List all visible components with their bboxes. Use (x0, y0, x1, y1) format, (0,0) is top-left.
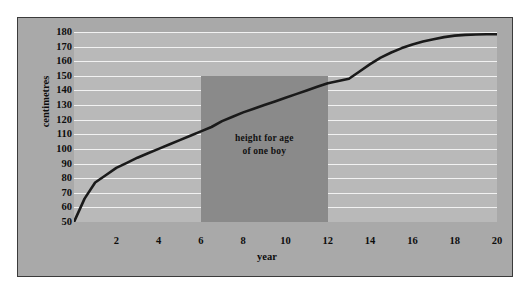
figure-panel: centimetres 1801701601501401301201101009… (17, 17, 513, 277)
y-tick-label-150: 150 (56, 71, 72, 81)
y-tick-label-160: 160 (56, 56, 72, 66)
y-tick-label-140: 140 (56, 85, 72, 95)
growth-curve (74, 32, 497, 222)
x-tick-label-18: 18 (449, 235, 460, 246)
x-tick-label-8: 8 (241, 235, 246, 246)
y-tick-label-100: 100 (56, 144, 72, 154)
x-tick-label-16: 16 (407, 235, 418, 246)
x-tick-label-10: 10 (280, 235, 291, 246)
y-tick-label-110: 110 (57, 129, 72, 139)
y-tick-label-170: 170 (56, 42, 72, 52)
x-axis-tick-labels: 2468101214161820 (74, 235, 497, 249)
y-tick-label-120: 120 (56, 115, 72, 125)
x-tick-label-14: 14 (365, 235, 376, 246)
x-tick-label-12: 12 (323, 235, 334, 246)
height-for-age-chart: centimetres 1801701601501401301201101009… (0, 0, 521, 294)
x-tick-label-4: 4 (156, 235, 161, 246)
y-tick-label-180: 180 (56, 27, 72, 37)
y-tick-label-80: 80 (62, 173, 73, 183)
x-axis-title: year (232, 251, 302, 262)
x-tick-label-6: 6 (198, 235, 203, 246)
x-tick-label-20: 20 (492, 235, 503, 246)
x-tick-label-2: 2 (114, 235, 119, 246)
y-tick-label-60: 60 (62, 202, 73, 212)
y-tick-label-70: 70 (62, 188, 73, 198)
plot-area: height for age of one boy (74, 32, 497, 222)
y-tick-label-130: 130 (56, 100, 72, 110)
y-axis-tick-labels: 1801701601501401301201101009080706050 (36, 32, 72, 222)
y-tick-label-50: 50 (62, 217, 73, 227)
y-tick-label-90: 90 (62, 159, 73, 169)
